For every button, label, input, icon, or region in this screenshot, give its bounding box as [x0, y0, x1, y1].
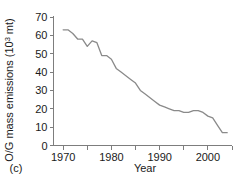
- y-axis-title-tail: mt): [3, 18, 15, 37]
- y-axis-tick-labels: 010203040506070: [35, 11, 47, 152]
- y-axis-title-main: O/G mass emissions (10: [3, 41, 15, 161]
- y-tick-label: 0: [41, 140, 47, 152]
- y-tick-label: 60: [35, 29, 47, 41]
- y-tick-label: 10: [35, 121, 47, 133]
- y-tick-label: 30: [35, 84, 47, 96]
- axis-tick-marks: [50, 17, 232, 150]
- figure-panel: 010203040506070 1970198019902000 Year O/…: [0, 0, 241, 185]
- y-axis-title-group: O/G mass emissions (103 mt): [3, 18, 16, 162]
- x-tick-label: 1980: [99, 151, 123, 163]
- y-axis-title: O/G mass emissions (103 mt): [3, 18, 16, 162]
- x-axis-title: Year: [134, 162, 157, 174]
- y-tick-label: 40: [35, 66, 47, 78]
- x-tick-label: 1970: [51, 151, 75, 163]
- x-axis-tick-labels: 1970198019902000: [51, 151, 220, 163]
- x-tick-label: 2000: [196, 151, 220, 163]
- panel-label: (c): [10, 162, 23, 174]
- y-tick-label: 20: [35, 103, 47, 115]
- y-tick-label: 50: [35, 48, 47, 60]
- emissions-line-chart: 010203040506070 1970198019902000 Year O/…: [0, 0, 241, 185]
- y-tick-label: 70: [35, 11, 47, 23]
- x-tick-label: 1990: [147, 151, 171, 163]
- data-series-line: [63, 30, 227, 133]
